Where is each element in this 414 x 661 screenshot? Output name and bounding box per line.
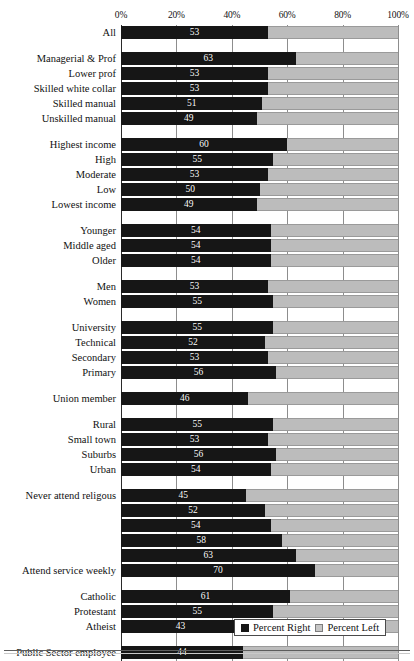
- chart-rows: All53Managerial & Prof63Lower prof53Skil…: [0, 25, 414, 661]
- bar-segment-percent-left: [282, 534, 398, 547]
- bar-row: Managerial & Prof63: [0, 51, 414, 66]
- bar-segment-percent-left: [273, 153, 398, 166]
- bar-segment-percent-left: [271, 463, 398, 476]
- bar-value-label: 54: [191, 463, 201, 476]
- row-label: Moderate: [0, 167, 116, 182]
- group-separator: [0, 309, 414, 320]
- bar-track: 61: [121, 590, 398, 603]
- bar-row: Never attend religous45: [0, 488, 414, 503]
- x-tick-label-100: 100%: [387, 10, 408, 20]
- bar-track: 53: [121, 67, 398, 80]
- row-label: Catholic: [0, 589, 116, 604]
- row-label: Middle aged: [0, 238, 116, 253]
- bar-row: Men53: [0, 279, 414, 294]
- row-label: Urban: [0, 462, 116, 477]
- bar-row: Younger54: [0, 223, 414, 238]
- plot-area: 0%20%40%60%80%100% All53Managerial & Pro…: [0, 0, 414, 661]
- group-separator: [0, 40, 414, 51]
- bar-row: 52: [0, 503, 414, 518]
- row-label: Never attend religous: [0, 488, 116, 503]
- row-label: Lower prof: [0, 66, 116, 81]
- row-label: Older: [0, 253, 116, 268]
- bar-value-label: 55: [192, 321, 202, 334]
- bar-track: 55: [121, 321, 398, 334]
- bar-value-label: 52: [188, 504, 198, 517]
- bar-row: Highest income60: [0, 137, 414, 152]
- row-label: Attend service weekly: [0, 563, 116, 578]
- bar-track: 55: [121, 418, 398, 431]
- row-label: Atheist: [0, 619, 116, 634]
- bar-row: Women55: [0, 294, 414, 309]
- footer-divider: [4, 650, 410, 651]
- bar-segment-percent-left: [268, 351, 398, 364]
- bar-track: 53: [121, 280, 398, 293]
- bar-segment-percent-left: [287, 138, 398, 151]
- row-label: Skilled manual: [0, 96, 116, 111]
- bar-value-label: 53: [190, 351, 200, 364]
- bar-row: Middle aged54: [0, 238, 414, 253]
- bar-segment-percent-left: [260, 183, 399, 196]
- bar-track: 55: [121, 605, 398, 618]
- group-separator: [0, 477, 414, 488]
- bar-value-label: 63: [204, 52, 214, 65]
- bar-segment-percent-left: [276, 448, 398, 461]
- chart-legend: Percent Right Percent Left: [234, 619, 386, 636]
- bar-row: Moderate53: [0, 167, 414, 182]
- bar-row: Lower prof53: [0, 66, 414, 81]
- bar-value-label: 53: [190, 67, 200, 80]
- bar-value-label: 63: [204, 549, 214, 562]
- bar-track: 46: [121, 392, 398, 405]
- bar-track: 63: [121, 52, 398, 65]
- row-label: [0, 518, 116, 533]
- bar-value-label: 54: [191, 254, 201, 267]
- bar-value-label: 61: [201, 590, 211, 603]
- group-separator: [0, 578, 414, 589]
- bar-segment-percent-left: [268, 280, 398, 293]
- bar-track: 63: [121, 549, 398, 562]
- x-tick-label-0: 0%: [115, 10, 127, 20]
- bar-track: 70: [121, 564, 398, 577]
- bar-row: 58: [0, 533, 414, 548]
- bar-value-label: 45: [179, 489, 189, 502]
- row-label: Highest income: [0, 137, 116, 152]
- bar-track: 60: [121, 138, 398, 151]
- row-label: Small town: [0, 432, 116, 447]
- row-label: Men: [0, 279, 116, 294]
- bar-value-label: 46: [180, 392, 190, 405]
- bar-value-label: 54: [191, 239, 201, 252]
- bar-segment-percent-left: [248, 392, 398, 405]
- bar-track: 54: [121, 463, 398, 476]
- bar-value-label: 55: [192, 605, 202, 618]
- bar-track: 55: [121, 295, 398, 308]
- bar-segment-percent-left: [246, 489, 398, 502]
- bar-track: 53: [121, 433, 398, 446]
- bar-track: 50: [121, 183, 398, 196]
- bar-segment-percent-left: [273, 418, 398, 431]
- footer-divider-secondary: [4, 653, 410, 654]
- bar-track: 56: [121, 448, 398, 461]
- legend-swatch-right-icon: [241, 624, 249, 632]
- bar-track: 49: [121, 198, 398, 211]
- bar-track: 52: [121, 336, 398, 349]
- bar-value-label: 58: [197, 534, 207, 547]
- bar-row: 63: [0, 548, 414, 563]
- bar-segment-percent-left: [276, 366, 398, 379]
- bar-track: 49: [121, 112, 398, 125]
- bar-segment-percent-left: [273, 295, 398, 308]
- bar-segment-percent-left: [290, 590, 398, 603]
- bar-track: 51: [121, 97, 398, 110]
- row-label: Suburbs: [0, 447, 116, 462]
- bar-row: Urban54: [0, 462, 414, 477]
- bar-segment-percent-left: [315, 564, 398, 577]
- bar-row: Catholic61: [0, 589, 414, 604]
- bar-row: Union member46: [0, 391, 414, 406]
- bar-row: Skilled white collar53: [0, 81, 414, 96]
- group-separator: [0, 126, 414, 137]
- bar-track: 53: [121, 168, 398, 181]
- bar-track: 54: [121, 239, 398, 252]
- bar-segment-percent-left: [268, 67, 398, 80]
- bar-track: 54: [121, 254, 398, 267]
- row-label: Primary: [0, 365, 116, 380]
- bar-value-label: 52: [188, 336, 198, 349]
- bar-row: Skilled manual51: [0, 96, 414, 111]
